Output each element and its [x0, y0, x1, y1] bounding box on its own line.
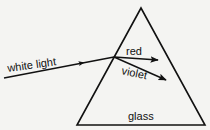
glass-label: glass [128, 110, 154, 122]
white-light-label: white light [6, 55, 57, 74]
red-label: red [126, 45, 142, 57]
glass-prism [77, 8, 205, 125]
prism-dispersion-diagram: white light red violet glass [0, 0, 210, 130]
violet-label: violet [121, 64, 149, 81]
